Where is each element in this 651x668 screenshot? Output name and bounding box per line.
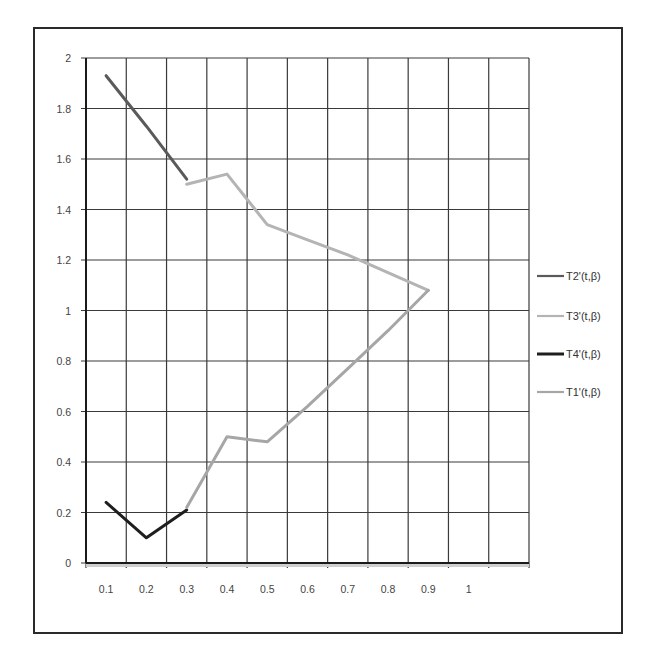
legend-label: T1'(t,β) xyxy=(566,386,601,398)
x-tick-label: 1 xyxy=(466,583,472,595)
y-tick-label: 0.6 xyxy=(56,406,71,418)
legend-label: T4'(t,β) xyxy=(566,348,601,360)
series-line xyxy=(187,290,429,507)
legend: T2'(t,β)T3'(t,β)T4'(t,β)T1'(t,β) xyxy=(537,270,601,398)
line-chart: 00.20.40.60.811.21.41.61.82 0.10.20.30.4… xyxy=(0,0,651,668)
x-tick-label: 0.7 xyxy=(340,583,355,595)
x-tick-label: 0.5 xyxy=(260,583,275,595)
y-tick-label: 1.4 xyxy=(56,204,71,216)
y-tick-label: 1.2 xyxy=(56,254,71,266)
y-tick-label: 1 xyxy=(65,305,71,317)
series-line xyxy=(187,174,429,290)
y-tick-label: 0 xyxy=(65,557,71,569)
series-line xyxy=(106,76,187,180)
grid-lines xyxy=(81,58,529,568)
x-tick-label: 0.6 xyxy=(300,583,315,595)
x-tick-label: 0.1 xyxy=(99,583,114,595)
y-tick-label: 1.6 xyxy=(56,153,71,165)
data-series xyxy=(106,76,428,538)
y-tick-label: 0.2 xyxy=(56,507,71,519)
y-tick-label: 2 xyxy=(65,52,71,64)
y-tick-label: 0.8 xyxy=(56,355,71,367)
x-tick-label: 0.4 xyxy=(220,583,235,595)
x-tick-label: 0.8 xyxy=(381,583,396,595)
legend-item: T1'(t,β) xyxy=(537,386,601,398)
y-tick-label: 0.4 xyxy=(56,456,71,468)
legend-item: T3'(t,β) xyxy=(537,310,601,322)
legend-item: T2'(t,β) xyxy=(537,270,601,282)
legend-label: T3'(t,β) xyxy=(566,310,601,322)
legend-item: T4'(t,β) xyxy=(537,348,601,360)
legend-label: T2'(t,β) xyxy=(566,270,601,282)
y-tick-label: 1.8 xyxy=(56,103,71,115)
y-axis-tick-labels: 00.20.40.60.811.21.41.61.82 xyxy=(56,52,71,569)
x-tick-label: 0.9 xyxy=(421,583,436,595)
x-axis-tick-labels: 0.10.20.30.40.50.60.70.80.91 xyxy=(99,583,472,595)
series-line xyxy=(106,502,187,537)
x-tick-label: 0.2 xyxy=(139,583,154,595)
x-tick-label: 0.3 xyxy=(179,583,194,595)
